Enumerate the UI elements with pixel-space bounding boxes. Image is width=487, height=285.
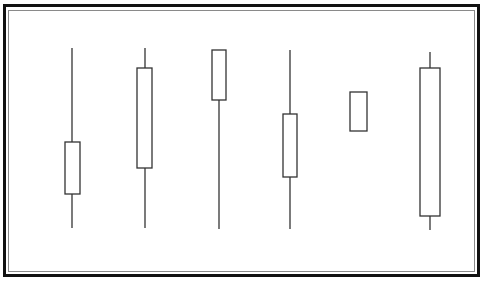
candle-body — [420, 68, 440, 216]
candlestick-diagram — [0, 0, 487, 285]
candle-body — [65, 142, 80, 194]
candle-body — [137, 68, 152, 168]
candle-6 — [420, 52, 440, 230]
candle-body — [350, 92, 367, 131]
candle-5 — [350, 92, 367, 131]
candle-2 — [137, 48, 152, 228]
candle-3 — [212, 50, 226, 229]
candle-body — [283, 114, 297, 177]
candle-4 — [283, 50, 297, 229]
candle-body — [212, 50, 226, 100]
candle-1 — [65, 48, 80, 228]
